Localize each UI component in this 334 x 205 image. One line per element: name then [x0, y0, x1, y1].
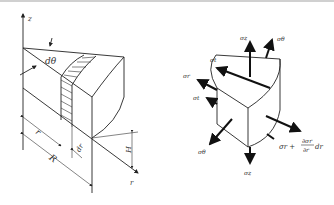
- sigma-t-upper-label: σt: [210, 56, 217, 63]
- partial-numerator: ∂σr: [302, 137, 313, 144]
- r-dimension: [23, 117, 61, 146]
- element-bottom-arc: [248, 110, 280, 147]
- sigma-z-top-label: σz: [240, 34, 248, 41]
- sigma-theta-bottom-label: σθ: [198, 148, 206, 155]
- strip-arc-1: [61, 55, 84, 77]
- partial-denominator: ∂r: [303, 146, 310, 153]
- sigma-t-lower-label: σt: [193, 94, 200, 101]
- dr-suffix: dr: [315, 143, 323, 151]
- dtheta-label: dθ: [45, 56, 57, 66]
- H-label: H: [124, 145, 133, 154]
- outer-arc-bottom: [92, 97, 124, 138]
- sigma-r-right-label: σr +: [279, 143, 295, 151]
- element-top-right-arc: [248, 59, 280, 108]
- z-axis-label: z: [27, 15, 32, 23]
- element-bottom-edge: [217, 124, 248, 147]
- sigma-t-tick-right: [267, 134, 274, 139]
- sigma-theta-bottom-arrow: [210, 119, 232, 144]
- sigma-t-lower-arrow: [207, 98, 217, 104]
- R-dimension-label: R: [46, 152, 58, 165]
- sigma-r-left-label: σr: [183, 72, 191, 79]
- outer-arc-top: [92, 57, 124, 97]
- element-top-back-edge: [216, 55, 280, 59]
- dr-label: dr: [75, 142, 86, 153]
- dtheta-arrow-top: [50, 38, 52, 46]
- sigma-r-left-arrow: [198, 80, 217, 90]
- sigma-z-bottom-label: σz: [244, 169, 252, 176]
- sigma-theta-top-label: σθ: [277, 35, 285, 42]
- wedge-figure: dθ z r r R dr H: [20, 14, 138, 193]
- r-axis-label: r: [130, 179, 134, 187]
- top-edge-front: [23, 48, 92, 97]
- element-top-front-edge: [217, 88, 248, 108]
- sigma-t-upper-arrow: [217, 68, 270, 88]
- stress-element-figure: σz σθ σt σr σt σθ σz σr + ∂σr ∂r dr: [183, 34, 323, 176]
- dtheta-arrow-bottom: [20, 66, 36, 75]
- R-dimension: [23, 134, 92, 186]
- top-edge-back: [23, 48, 124, 57]
- r-dimension-label: r: [34, 127, 43, 137]
- strip-hatching: [61, 57, 95, 121]
- sigma-r-right-arrow: [266, 116, 300, 131]
- sigma-theta-top-arrow: [266, 40, 272, 58]
- diagram-canvas: dθ z r r R dr H σz: [0, 0, 334, 205]
